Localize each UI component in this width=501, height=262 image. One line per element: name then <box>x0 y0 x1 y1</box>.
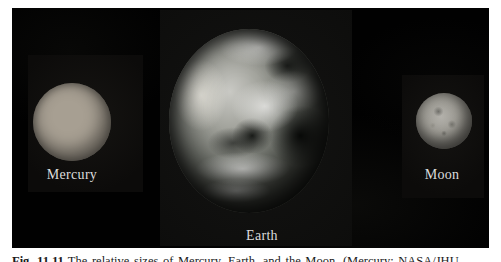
figure-caption: Fig. 11.11The relative sizes of Mercury,… <box>12 254 467 262</box>
earth-label: Earth <box>202 229 322 243</box>
figure-caption-text: The relative sizes of Mercury, Earth, an… <box>68 254 459 262</box>
page: Mercury Earth Moon Fig. 11.11The relativ… <box>0 0 501 262</box>
earth-image <box>169 29 329 213</box>
figure-panel: Mercury Earth Moon <box>12 8 489 248</box>
figure-number: Fig. 11.11 <box>12 254 64 262</box>
mercury-label: Mercury <box>12 168 132 182</box>
mercury-image <box>33 83 111 161</box>
moon-label: Moon <box>382 168 489 182</box>
moon-image <box>416 93 472 149</box>
